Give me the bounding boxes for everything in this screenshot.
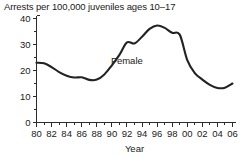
annotation-group: Female <box>111 55 143 66</box>
x-axis-tick-label: 80 <box>31 128 42 139</box>
chart-figure: Arrests per 100,000 juveniles ages 10–17… <box>0 0 244 158</box>
line-chart: 010203040 8082848688909294969800020406 F… <box>0 0 244 158</box>
y-axis-tick-label: 0 <box>25 117 30 128</box>
y-axis-tick-label: 10 <box>20 91 31 102</box>
y-axis-tick-label: 40 <box>20 13 31 24</box>
y-axis-tick-label: 30 <box>20 39 31 50</box>
axis-title-group: Year <box>125 143 144 154</box>
x-axis-tick-label: 88 <box>92 128 103 139</box>
x-axis-tick-label: 96 <box>152 128 163 139</box>
x-axis-tick-label: 94 <box>137 128 148 139</box>
series-annotation-female: Female <box>111 55 143 66</box>
x-axis-title: Year <box>125 143 144 154</box>
x-axis-tick-label: 86 <box>76 128 87 139</box>
x-axis-tick-label: 82 <box>46 128 57 139</box>
y-axis: 010203040 <box>20 13 40 128</box>
x-axis-tick-label: 92 <box>122 128 133 139</box>
x-axis-tick-label: 98 <box>167 128 178 139</box>
x-axis-tick-label: 84 <box>61 128 72 139</box>
x-axis-tick-label: 90 <box>107 128 118 139</box>
x-axis: 8082848688909294969800020406 <box>31 123 238 139</box>
x-axis-tick-label: 04 <box>212 128 223 139</box>
x-axis-tick-label: 02 <box>197 128 208 139</box>
x-axis-tick-label: 00 <box>182 128 193 139</box>
y-axis-tick-label: 20 <box>20 65 31 76</box>
x-axis-tick-label: 06 <box>227 128 238 139</box>
